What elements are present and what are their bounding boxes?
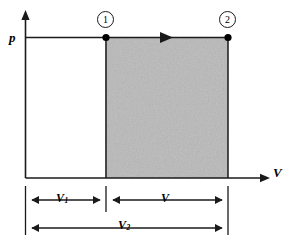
state-label-1: 1 (97, 11, 114, 28)
dimension-label-v1-subscript: 1 (64, 196, 68, 205)
dimension-label-v2-text: V (118, 218, 126, 232)
pv-diagram-canvas (0, 0, 292, 247)
pressure-axis-arrowhead (21, 10, 29, 20)
dimension-label-v-text: V (161, 191, 169, 205)
volume-axis-label: V (273, 166, 282, 179)
dimension-label-v2-subscript: 2 (126, 223, 130, 232)
pressure-axis-label: p (9, 31, 16, 44)
dimension-label-v2: V2 (118, 219, 130, 232)
state-label-2: 2 (219, 11, 236, 28)
dimension-label-v: V (161, 192, 169, 204)
dimension-label-v1: V1 (56, 192, 68, 205)
volume-axis-arrowhead (260, 174, 270, 183)
state-point-1-marker (102, 34, 109, 41)
dimension-label-v1-text: V (56, 191, 64, 205)
pv-diagram-figure: p V 1 2 V1 V V2 (0, 0, 292, 247)
work-area-shading (106, 38, 229, 179)
state-point-2-marker (224, 34, 231, 41)
